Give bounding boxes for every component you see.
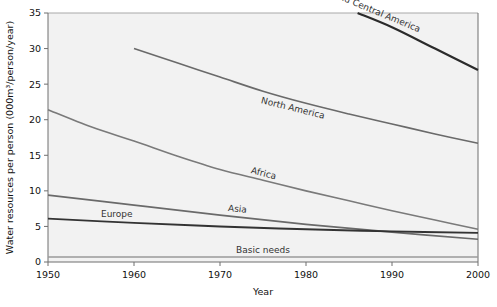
y-tick-label: 5 <box>35 221 41 232</box>
series-label-basic-needs: Basic needs <box>236 245 290 255</box>
x-tick-label: 1980 <box>294 269 318 280</box>
x-axis-title: Year <box>252 286 273 297</box>
x-tick-label: 1990 <box>380 269 404 280</box>
x-tick-label: 1960 <box>122 269 146 280</box>
water-resources-line-chart: 05101520253035195019601970198019902000Ye… <box>0 0 497 307</box>
plot-area-background <box>48 13 478 262</box>
y-tick-label: 30 <box>29 43 41 54</box>
series-label-asia: Asia <box>228 203 248 215</box>
y-tick-label: 10 <box>29 185 41 196</box>
x-tick-label: 1970 <box>208 269 232 280</box>
y-tick-label: 0 <box>35 256 41 267</box>
x-tick-label: 1950 <box>36 269 60 280</box>
chart-canvas: 05101520253035195019601970198019902000Ye… <box>0 0 497 307</box>
x-tick-label: 2000 <box>466 269 490 280</box>
y-tick-label: 35 <box>29 7 41 18</box>
y-tick-label: 20 <box>29 114 41 125</box>
y-axis-title: Water resources per person (000m³/person… <box>4 21 15 254</box>
y-tick-label: 25 <box>29 79 41 90</box>
y-tick-label: 15 <box>29 150 41 161</box>
series-label-europe: Europe <box>101 209 133 219</box>
